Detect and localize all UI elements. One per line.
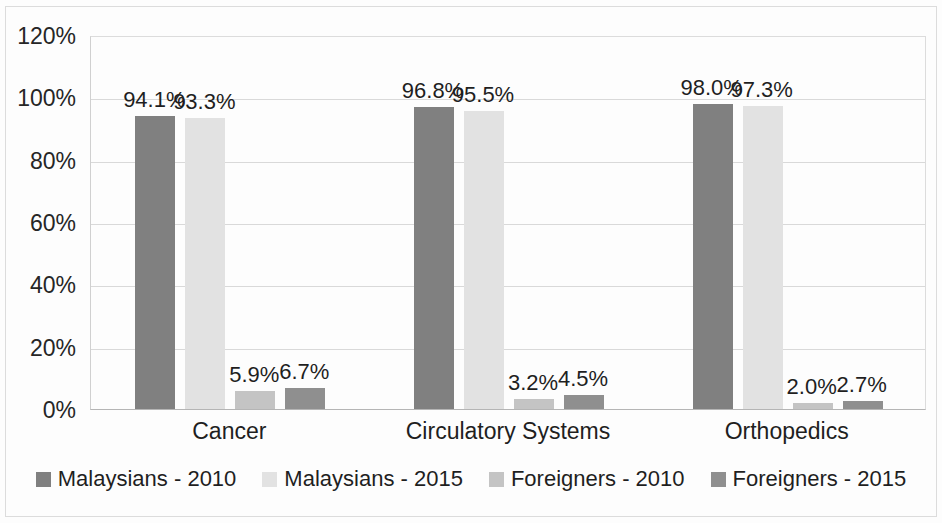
legend-label: Malaysians - 2010 xyxy=(58,468,237,490)
bar-value-label: 93.3% xyxy=(173,91,235,113)
bar-value-label: 2.0% xyxy=(787,376,837,398)
bar xyxy=(464,111,504,409)
y-axis-tick: 40% xyxy=(30,274,76,297)
y-axis-tick: 120% xyxy=(17,25,76,48)
bar xyxy=(693,104,733,409)
bar xyxy=(135,116,175,409)
bar xyxy=(793,403,833,409)
bar-value-label: 4.5% xyxy=(558,368,608,390)
x-axis-category-label: Orthopedics xyxy=(725,420,849,443)
legend-label: Foreigners - 2010 xyxy=(511,468,685,490)
y-axis-tick: 60% xyxy=(30,212,76,235)
legend-label: Foreigners - 2015 xyxy=(733,468,907,490)
bar-value-label: 97.3% xyxy=(730,79,792,101)
legend-swatch-icon xyxy=(36,472,51,487)
bar-chart: 120% 100% 80% 60% 40% 20% 0% 94.1%93.3%5… xyxy=(0,0,942,523)
legend: Malaysians - 2010Malaysians - 2015Foreig… xyxy=(0,468,942,490)
legend-item[interactable]: Foreigners - 2010 xyxy=(489,468,685,490)
bar xyxy=(743,106,783,409)
y-axis-tick: 20% xyxy=(30,336,76,359)
bar xyxy=(185,118,225,409)
bar xyxy=(514,399,554,409)
legend-item[interactable]: Foreigners - 2015 xyxy=(711,468,907,490)
bar xyxy=(843,401,883,409)
y-axis-tick: 100% xyxy=(17,87,76,110)
y-axis-tick: 0% xyxy=(43,399,76,422)
legend-swatch-icon xyxy=(489,472,504,487)
legend-swatch-icon xyxy=(262,472,277,487)
bar-value-label: 2.7% xyxy=(837,374,887,396)
y-axis-tick: 80% xyxy=(30,149,76,172)
legend-item[interactable]: Malaysians - 2010 xyxy=(36,468,237,490)
bar xyxy=(564,395,604,409)
bar-value-label: 3.2% xyxy=(508,372,558,394)
bar xyxy=(235,391,275,409)
x-axis-category-label: Circulatory Systems xyxy=(406,420,610,443)
legend-label: Malaysians - 2015 xyxy=(284,468,463,490)
bar-value-label: 5.9% xyxy=(229,364,279,386)
bar xyxy=(414,107,454,409)
x-axis-category-label: Cancer xyxy=(192,420,266,443)
legend-item[interactable]: Malaysians - 2015 xyxy=(262,468,463,490)
bar-value-label: 6.7% xyxy=(279,361,329,383)
legend-swatch-icon xyxy=(711,472,726,487)
bar-value-label: 95.5% xyxy=(452,84,514,106)
bar xyxy=(285,388,325,409)
y-axis: 120% 100% 80% 60% 40% 20% 0% xyxy=(0,36,84,410)
